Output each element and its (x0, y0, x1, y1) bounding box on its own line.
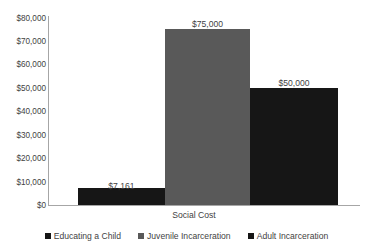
bar-chart: $80,000 $70,000 $60,000 $50,000 $40,000 … (0, 0, 373, 250)
chart-legend: Educating a Child Juvenile Incarceration… (0, 231, 373, 241)
x-axis-category-label: Social Cost (48, 210, 340, 220)
bar-label-educating-a-child: $7,161 (78, 181, 165, 191)
legend-swatch-icon (138, 233, 144, 239)
legend-swatch-icon (45, 233, 51, 239)
legend-item-adult-incarceration[interactable]: Adult Incarceration (248, 231, 329, 241)
legend-item-juvenile-incarceration[interactable]: Juvenile Incarceration (138, 231, 231, 241)
bar-adult-incarceration[interactable] (250, 88, 338, 205)
legend-label-adult-incarceration: Adult Incarceration (257, 231, 329, 241)
legend-label-educating-a-child: Educating a Child (54, 231, 121, 241)
bar-label-adult-incarceration: $50,000 (250, 78, 338, 88)
legend-swatch-icon (248, 233, 254, 239)
bar-juvenile-incarceration[interactable] (165, 29, 250, 205)
legend-label-juvenile-incarceration: Juvenile Incarceration (147, 231, 231, 241)
bar-label-juvenile-incarceration: $75,000 (165, 19, 250, 29)
legend-item-educating-a-child[interactable]: Educating a Child (45, 231, 121, 241)
